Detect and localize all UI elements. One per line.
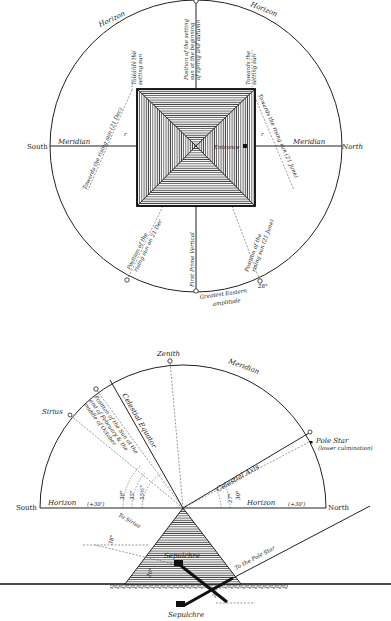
label-first-prime-vertical: First Prime Vertical (189, 232, 195, 288)
bottom-section-diagram: Zenith Meridian Sirius Pole Star (lower … (0, 350, 391, 619)
label-angle-27: 27° (227, 493, 233, 504)
label-angle-mark-left: r (124, 131, 127, 137)
label-pole-star: Pole Star (315, 437, 349, 445)
label-meridian-right: Meridian (292, 138, 326, 146)
label-angle-30: 30° (235, 490, 241, 500)
label-meridian-left: Meridian (57, 138, 91, 146)
label-towards-setting-left-2: setting sun (137, 54, 144, 85)
entrance-marker (243, 144, 247, 148)
label-towards-setting-right-2: setting sun (251, 54, 258, 85)
upper-sepulchre (174, 560, 183, 566)
sirius-marker (68, 413, 72, 417)
label-entrance: Entrance (213, 144, 240, 150)
label-zenith: Zenith (156, 350, 180, 358)
pyramid-astronomy-diagram: Horizon Horizon South North Meridian Mer… (0, 0, 391, 621)
label-south: South (16, 504, 37, 512)
label-angle-mark-right: r (261, 131, 264, 137)
ground-strip (110, 584, 288, 589)
label-north: North (341, 143, 363, 151)
label-sepulchre-upper: Sepulchre (164, 552, 200, 560)
label-south: South (27, 143, 48, 151)
greatest-eastern-marker (194, 289, 198, 293)
sun-june-line (170, 361, 183, 508)
label-celestial-axis: Celestial Axis (215, 463, 261, 494)
to-pole-star-line (233, 506, 370, 578)
label-refraction-right: (+30') (288, 501, 305, 507)
label-angle-38: 38° (119, 490, 125, 500)
label-sirius: Sirius (42, 408, 63, 416)
label-to-sirius: To Sirius (118, 512, 142, 530)
label-angle-55: 55½° (139, 485, 145, 500)
rising-dec-marker (125, 278, 129, 282)
pyramid-section (125, 508, 241, 584)
label-refraction-left: (+30') (87, 501, 104, 507)
lower-sepulchre (176, 601, 185, 607)
towards-rising-june-line (252, 90, 294, 190)
label-angle-35: 35° (129, 490, 135, 500)
label-angle-28: 28° (257, 283, 268, 289)
label-towards-rising-dec: Towards the rising sun (21 Dec) (81, 106, 124, 190)
label-sun-feb-2: end of February & the (87, 398, 130, 453)
towards-rising-dec-line (88, 90, 132, 190)
label-north: North (328, 504, 349, 512)
label-horizon-right: Horizon (248, 0, 279, 19)
sun-feb-marker (94, 387, 98, 391)
label-sepulchre-lower: Sepulchre (168, 611, 204, 619)
label-horizon-right: Horizon (246, 499, 276, 507)
label-lower-culmination: (lower culmination) (318, 445, 373, 451)
setting-equinox-marker (194, 0, 198, 3)
pole-star-marker (308, 430, 312, 434)
zenith-marker (168, 359, 172, 363)
top-plan-diagram: Horizon Horizon South North Meridian Mer… (27, 0, 363, 308)
label-setting-equinox-3: of spring and autumn (195, 19, 202, 80)
meridian-arc (40, 365, 326, 508)
label-angle-38b: 38° (107, 534, 115, 545)
label-greatest-eastern-2: amplitude (212, 297, 242, 308)
label-horizon-left: Horizon (47, 499, 77, 507)
sirius-line (70, 415, 183, 508)
